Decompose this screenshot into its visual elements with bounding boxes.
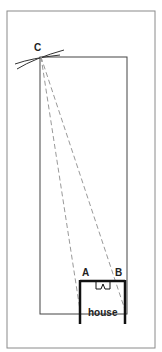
door-icon xyxy=(96,282,110,289)
label-point-c: C xyxy=(34,42,41,53)
label-point-b: B xyxy=(115,267,122,278)
measurement-diagram: C A B house xyxy=(0,0,162,352)
dashed-line-c-to-a xyxy=(41,57,80,310)
label-point-a: A xyxy=(82,267,89,278)
label-house: house xyxy=(88,307,118,318)
arc-mark-2 xyxy=(15,55,60,64)
